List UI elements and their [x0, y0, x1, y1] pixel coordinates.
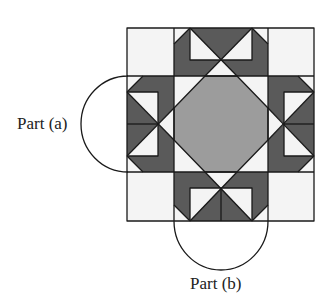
top-block	[174, 28, 268, 76]
quilt-block	[127, 28, 314, 221]
part-b-arc	[174, 221, 268, 270]
left-block	[127, 76, 174, 172]
bottom-block	[174, 172, 268, 221]
right-block	[268, 76, 314, 172]
part-b-label: Part (b)	[190, 274, 241, 294]
part-a-arc	[81, 76, 128, 172]
part-a-label: Part (a)	[17, 114, 68, 134]
quilt-diagram	[0, 0, 330, 308]
